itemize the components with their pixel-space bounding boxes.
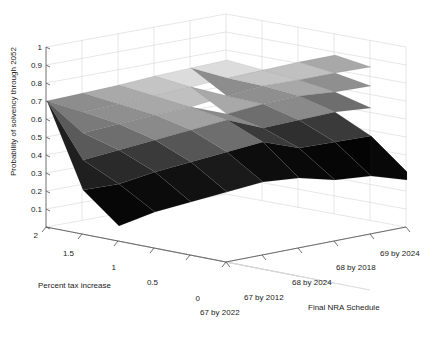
y-tick-label-2: 1 [112, 263, 117, 272]
x-tick-label-4: 69 by 2024 [380, 249, 420, 258]
x-tick-label-0: 67 by 2022 [200, 308, 240, 317]
z-tick-label-1: 0.9 [31, 61, 43, 70]
y-tick-label-0: 2 [34, 231, 39, 240]
x-tick-label-3: 68 by 2018 [336, 263, 376, 272]
z-tick-label-7: 0.3 [31, 169, 43, 178]
x-tick-label-1: 67 by 2012 [244, 293, 284, 302]
y-tick-label-3: 0.5 [147, 278, 159, 287]
z-tick-label-9: 0.1 [31, 205, 43, 214]
z-axis-label: Probability of solvency through 2052 [9, 46, 18, 176]
z-tick-label-3: 0.7 [31, 97, 43, 106]
x-axis: 67 by 2022 67 by 2012 68 by 2024 68 by 2… [200, 227, 420, 317]
y-axis-label: Percent tax increase [38, 281, 111, 290]
plot-canvas: 1 0.9 0.8 0.7 0.6 0.5 0.4 0.3 0.2 0.1 Pr… [0, 0, 446, 340]
z-tick-label-6: 0.4 [31, 151, 43, 160]
y-tick-label-4: 0 [196, 294, 201, 303]
x-axis-label: Final NRA Schedule [308, 303, 380, 312]
z-tick-label-0: 1 [38, 43, 43, 52]
z-tick-label-5: 0.5 [31, 133, 43, 142]
z-tick-label-2: 0.8 [31, 79, 43, 88]
y-tick-label-1: 1.5 [63, 249, 75, 258]
surface-mesh [47, 55, 407, 226]
z-axis-ticks [46, 47, 50, 229]
y-axis: 2 1.5 1 0.5 0 Percent tax increase [34, 227, 226, 303]
z-tick-label-8: 0.2 [31, 187, 43, 196]
z-tick-label-4: 0.6 [31, 115, 43, 124]
x-tick-label-2: 68 by 2024 [292, 278, 332, 287]
z-axis: 1 0.9 0.8 0.7 0.6 0.5 0.4 0.3 0.2 0.1 Pr… [9, 43, 50, 229]
figure-3d-surface-plot: 1 0.9 0.8 0.7 0.6 0.5 0.4 0.3 0.2 0.1 Pr… [0, 0, 446, 340]
